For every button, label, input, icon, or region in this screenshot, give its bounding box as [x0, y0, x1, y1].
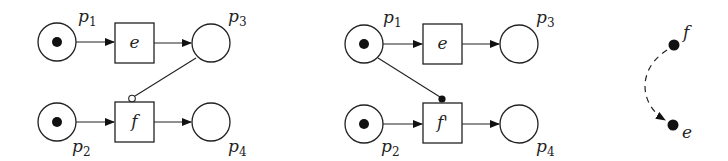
transition-label-e: e [437, 33, 447, 53]
place-p4: p4 [500, 105, 555, 159]
place-label-p3: p3 [228, 6, 247, 29]
transition-label-f-prime: f' [435, 112, 448, 132]
node-label-e: e [682, 122, 692, 142]
token-icon [52, 117, 62, 127]
dashed-edge-f-e [645, 50, 667, 120]
inhibitor-circle-icon [129, 95, 136, 102]
place-p1: p1 [345, 7, 402, 63]
transition-f-prime: f' [423, 103, 462, 143]
node-label-f: f [681, 22, 692, 42]
transition-e: e [115, 23, 154, 63]
token-icon [359, 39, 369, 49]
place-label-p2: p2 [381, 136, 400, 159]
node-f [669, 40, 680, 51]
transition-e: e [423, 24, 462, 64]
transition-label-e: e [129, 32, 139, 52]
inhibitor-arc-p3-f [135, 58, 196, 96]
place-p3: p3 [192, 6, 247, 62]
place-label-p4: p4 [228, 136, 247, 159]
place-p4: p4 [192, 103, 247, 159]
dependency-graph: f e [645, 22, 692, 142]
token-icon [359, 119, 369, 129]
place-label-p4: p4 [536, 136, 555, 159]
place-p2: p2 [345, 105, 400, 159]
read-arc-dot-icon [438, 95, 445, 102]
place-label-p1: p1 [383, 7, 402, 30]
place-label-p1: p1 [78, 6, 97, 29]
net-2: p1 p2 p3 p4 e f' [345, 7, 555, 159]
net-1: p1 p2 p3 p4 e f [38, 6, 247, 159]
token-icon [52, 37, 62, 47]
place-p3: p3 [500, 7, 555, 63]
petri-net-figure: p1 p2 p3 p4 e f [0, 0, 728, 161]
transition-f: f [115, 102, 154, 142]
place-p2: p2 [38, 103, 91, 159]
place-label-p2: p2 [72, 136, 91, 159]
place-p1: p1 [38, 6, 97, 61]
place-label-p3: p3 [536, 7, 555, 30]
node-e [668, 120, 679, 131]
